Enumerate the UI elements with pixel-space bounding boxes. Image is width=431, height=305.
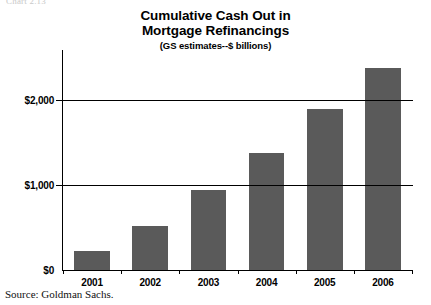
bar-2003 bbox=[191, 190, 227, 270]
bar-2001 bbox=[74, 251, 110, 270]
bar-group-2003: 2003 bbox=[191, 58, 227, 270]
plot-area: 200120022003200420052006 $0$1,000$2,000 bbox=[63, 58, 412, 270]
chart-title-line-1: Cumulative Cash Out in bbox=[0, 8, 431, 23]
y-axis-label-2000: $2,000 bbox=[25, 95, 54, 106]
chart-number-label: Chart 2.13 bbox=[6, 0, 46, 6]
bar-group-2004: 2004 bbox=[249, 58, 285, 270]
gridline-2000 bbox=[56, 100, 413, 101]
bar-group-2001: 2001 bbox=[74, 58, 110, 270]
y-axis-label-1000: $1,000 bbox=[25, 180, 54, 191]
bar-group-2002: 2002 bbox=[132, 58, 168, 270]
chart-title-line-2: Mortgage Refinancings bbox=[0, 23, 431, 38]
chart-figure: Chart 2.13 Cumulative Cash Out in Mortga… bbox=[0, 0, 431, 305]
bar-2002 bbox=[132, 226, 168, 270]
bar-2006 bbox=[365, 68, 401, 270]
x-axis-tick-3 bbox=[296, 270, 297, 274]
chart-subtitle: (GS estimates--$ billions) bbox=[0, 39, 431, 52]
x-axis-label-2001: 2001 bbox=[81, 277, 102, 288]
x-axis-tick-5 bbox=[412, 270, 413, 274]
x-axis-tick-0 bbox=[121, 270, 122, 274]
x-axis-tick-1 bbox=[179, 270, 180, 274]
bar-group-2006: 2006 bbox=[365, 58, 401, 270]
chart-title-block: Cumulative Cash Out in Mortgage Refinanc… bbox=[0, 8, 431, 52]
x-axis-tick-origin bbox=[63, 270, 64, 274]
x-axis-tick-2 bbox=[238, 270, 239, 274]
bar-series: 200120022003200420052006 bbox=[63, 58, 412, 270]
x-axis-label-2006: 2006 bbox=[372, 277, 393, 288]
x-axis-label-2005: 2005 bbox=[314, 277, 335, 288]
x-axis-label-2002: 2002 bbox=[140, 277, 161, 288]
x-axis-label-2004: 2004 bbox=[256, 277, 277, 288]
bar-2005 bbox=[307, 109, 343, 270]
bar-group-2005: 2005 bbox=[307, 58, 343, 270]
gridline-1000 bbox=[56, 185, 413, 186]
y-axis-label-0: $0 bbox=[43, 265, 54, 276]
bar-2004 bbox=[249, 153, 285, 270]
source-note: Source: Goldman Sachs. bbox=[5, 288, 113, 300]
x-axis-tick-4 bbox=[354, 270, 355, 274]
x-axis-label-2003: 2003 bbox=[198, 277, 219, 288]
